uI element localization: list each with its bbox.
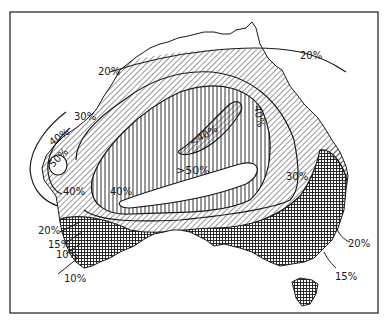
label-sw-20: 20% [38, 225, 60, 236]
label-sw-10a: 10% [56, 249, 78, 260]
label-ne-20: 20% [300, 50, 322, 61]
label-se-15: 15% [335, 271, 357, 282]
label-central-40: 40% [110, 186, 132, 197]
label-gt50: >50% [176, 164, 210, 177]
label-west-40b: 40% [63, 186, 85, 197]
australia-contour-map: 20% 20% 30% 40% 50% 40% 40% <40% >50% 40… [0, 0, 392, 321]
label-north-20: 20% [98, 66, 120, 77]
label-west-30: 30% [74, 111, 96, 122]
label-east-30: 30% [286, 171, 308, 182]
label-se-20: 20% [348, 238, 370, 249]
label-sw-10b: 10% [64, 273, 86, 284]
